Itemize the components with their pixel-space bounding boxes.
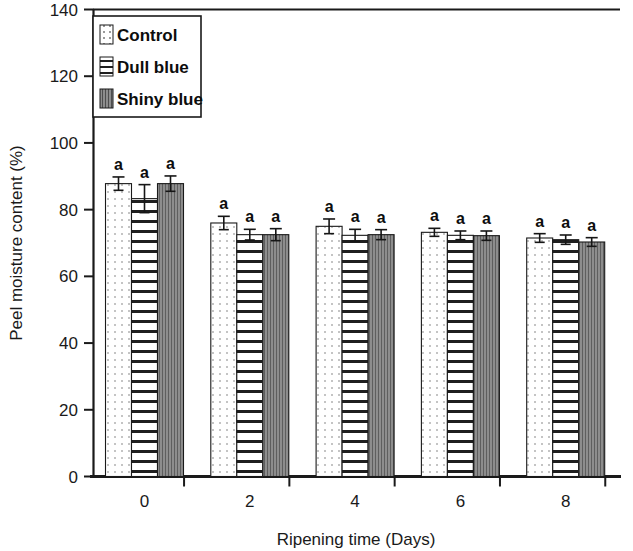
bar: [527, 238, 553, 477]
significance-letter: a: [561, 214, 570, 231]
legend-item-control: Control: [100, 25, 177, 45]
y-tick-label: 120: [50, 67, 78, 86]
bar: [447, 235, 473, 476]
legend-item-dull-blue: Dull blue: [100, 57, 189, 77]
legend-swatch-dull-blue: [100, 57, 113, 76]
x-axis-title: Ripening time (Days): [277, 530, 436, 549]
figure-container: 020406080100120140 02468 aaaaaaaaaaaaaaa…: [0, 0, 633, 551]
significance-letter: a: [482, 210, 491, 227]
x-tick-label: 8: [561, 492, 570, 511]
significance-letter: a: [219, 195, 228, 212]
bar: [421, 232, 447, 476]
bar-chart: 020406080100120140 02468 aaaaaaaaaaaaaaa…: [0, 0, 633, 551]
y-tick-label: 0: [69, 468, 78, 487]
significance-letter: a: [456, 210, 465, 227]
significance-letter: a: [140, 164, 149, 181]
bar: [263, 235, 289, 477]
y-tick-label: 140: [50, 1, 78, 20]
bar: [342, 235, 368, 476]
y-axis-title: Peel moisture content (%): [7, 145, 26, 341]
x-tick-label: 2: [245, 492, 254, 511]
y-tick-label: 100: [50, 134, 78, 153]
legend-label-shiny-blue: Shiny blue: [117, 90, 203, 109]
legend-label-dull-blue: Dull blue: [117, 58, 189, 77]
x-tick-label: 4: [350, 492, 359, 511]
bar: [316, 226, 342, 476]
y-axis-ticks: [84, 10, 94, 477]
significance-letters-group: aaaaaaaaaaaaaaa: [114, 155, 596, 234]
bar: [473, 236, 499, 477]
significance-letter: a: [351, 208, 360, 225]
x-axis-ticks: [184, 477, 605, 487]
y-tick-label: 20: [59, 401, 78, 420]
significance-letter: a: [535, 213, 544, 230]
x-tick-label: 6: [456, 492, 465, 511]
legend-swatch-shiny-blue: [100, 89, 113, 108]
y-tick-label: 40: [59, 334, 78, 353]
significance-letter: a: [114, 156, 123, 173]
x-axis-tick-labels: 02468: [140, 492, 571, 511]
bars-group: [106, 184, 605, 477]
bar: [106, 184, 132, 477]
significance-letter: a: [166, 155, 175, 172]
significance-letter: a: [430, 207, 439, 224]
legend-swatch-control: [100, 25, 113, 44]
bar: [237, 235, 263, 477]
significance-letter: a: [325, 198, 334, 215]
x-tick-label: 0: [140, 492, 149, 511]
bar: [132, 199, 158, 477]
legend: Control Dull blue Shiny blue: [93, 16, 203, 117]
bar: [211, 223, 237, 477]
bar: [368, 235, 394, 477]
y-tick-label: 80: [59, 201, 78, 220]
bar: [158, 184, 184, 477]
significance-letter: a: [377, 209, 386, 226]
bar: [553, 240, 579, 477]
y-tick-label: 60: [59, 267, 78, 286]
bar: [579, 242, 605, 477]
significance-letter: a: [587, 217, 596, 234]
y-axis-tick-labels: 020406080100120140: [50, 1, 78, 487]
legend-label-control: Control: [117, 26, 177, 45]
significance-letter: a: [271, 208, 280, 225]
significance-letter: a: [245, 208, 254, 225]
